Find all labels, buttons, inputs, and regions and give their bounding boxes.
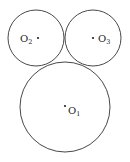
center-label-o3: O3	[98, 33, 110, 46]
center-point-o2	[37, 37, 39, 39]
center-point-o1	[64, 105, 66, 107]
center-label-o2: O2	[20, 33, 32, 46]
circle-o2	[8, 10, 64, 66]
center-label-o1: O1	[68, 105, 80, 118]
center-point-o3	[92, 37, 94, 39]
tangent-circles-diagram: O1O2O3	[0, 0, 130, 162]
